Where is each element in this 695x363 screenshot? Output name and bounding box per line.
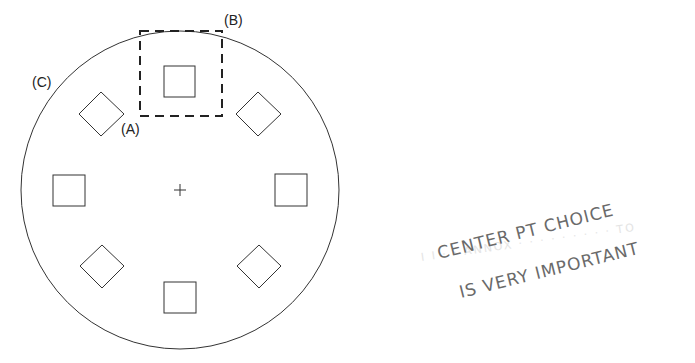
wafer-diagram (0, 0, 695, 363)
pad-left (53, 175, 85, 206)
pad-top-right (236, 92, 281, 136)
pad-bottom-left (80, 245, 124, 288)
pad-bottom-right (237, 245, 281, 288)
pad-top-left (79, 92, 124, 136)
label-c: (C) (32, 74, 51, 90)
label-a: (A) (121, 121, 140, 137)
pad-right (275, 174, 307, 206)
pad-bottom (164, 282, 196, 313)
pad-top (164, 66, 195, 97)
dashed-region-box (140, 31, 222, 116)
center-cross-icon (174, 184, 186, 196)
label-b: (B) (224, 12, 243, 28)
